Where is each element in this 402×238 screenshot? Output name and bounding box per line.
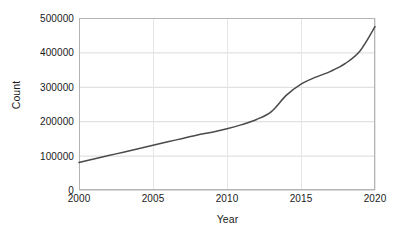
x-tick-label: 2020: [345, 193, 402, 204]
plot-canvas: [79, 18, 375, 190]
x-tick-label: 2005: [123, 193, 183, 204]
y-tick-label: 500000: [14, 13, 74, 24]
x-tick-label: 2015: [271, 193, 331, 204]
y-tick-label: 300000: [14, 81, 74, 92]
x-tick-label: 2000: [49, 193, 109, 204]
y-tick-label: 200000: [14, 116, 74, 127]
vertical-gridlines: [80, 18, 376, 190]
y-tick-label: 400000: [14, 47, 74, 58]
x-axis-title: Year: [79, 213, 376, 225]
y-tick-label: 100000: [14, 150, 74, 161]
x-tick-label: 2010: [197, 193, 257, 204]
y-axis-title: Count: [6, 0, 26, 190]
plot-area: [79, 18, 375, 190]
line-chart-figure: Count 0100000200000300000400000500000 20…: [0, 0, 402, 238]
